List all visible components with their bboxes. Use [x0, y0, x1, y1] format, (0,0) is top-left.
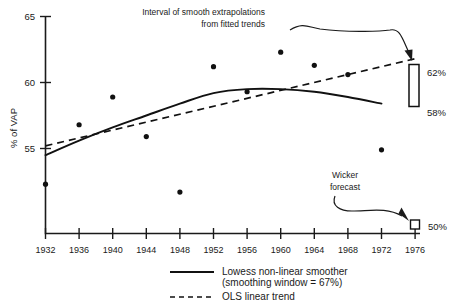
forecast-annotation-line1: Wicker [332, 170, 358, 180]
legend: Lowess non-linear smoother (smoothing wi… [170, 266, 348, 302]
x-tick-label-1932: 1932 [35, 245, 55, 255]
x-tick-label-1968: 1968 [338, 245, 358, 255]
y-tick-label-55: 55 [24, 143, 35, 154]
x-tick-label-1944: 1944 [136, 245, 156, 255]
x-tick-label-1940: 1940 [103, 245, 123, 255]
series-layer [43, 50, 415, 195]
forecast-annotation-arrow [334, 196, 402, 216]
data-point [211, 64, 216, 69]
x-tick-label-1960: 1960 [271, 245, 291, 255]
lowess-smoother-line [46, 89, 382, 155]
x-tick-label-1964: 1964 [304, 245, 324, 255]
legend-label-lowess-line1: Lowess non-linear smoother [222, 266, 348, 277]
wicker-forecast-marker [411, 220, 420, 229]
data-point [177, 189, 182, 194]
interval-annotation-arrow [290, 26, 410, 55]
axes-group: 65 60 55 % of VAP 1932 1936 1940 1944 19… [8, 11, 425, 255]
wicker-forecast-group: 50% [411, 220, 448, 232]
legend-label-ols: OLS linear trend [222, 291, 295, 302]
data-point [77, 122, 82, 127]
forecast-annotation-line2: forecast [330, 182, 361, 192]
forecast-value-label: 50% [428, 221, 448, 232]
extrapolation-interval-group: 62% 58% [409, 65, 447, 119]
data-point [110, 94, 115, 99]
data-point [312, 63, 317, 68]
axis-lines [46, 16, 421, 234]
data-point [278, 50, 283, 55]
x-tick-label-1976: 1976 [405, 245, 425, 255]
x-tick-label-1952: 1952 [203, 245, 223, 255]
y-tick-label-60: 60 [24, 77, 35, 88]
extrapolation-interval-box [409, 65, 419, 107]
x-tick-label-1972: 1972 [371, 245, 391, 255]
x-tick-label-1956: 1956 [237, 245, 257, 255]
interval-upper-label: 62% [427, 67, 447, 78]
forecast-annotation-arrowhead [399, 208, 410, 222]
x-tick-label-1936: 1936 [69, 245, 89, 255]
chart-canvas: 65 60 55 % of VAP 1932 1936 1940 1944 19… [0, 0, 453, 306]
interval-annotation-line1: Interval of smooth extrapolations [142, 7, 265, 17]
interval-annotation-arrowhead [405, 50, 413, 62]
interval-lower-label: 58% [427, 107, 447, 118]
forecast-annotation: Wicker forecast [330, 170, 409, 221]
data-point [379, 147, 384, 152]
interval-annotation: Interval of smooth extrapolations from f… [142, 7, 412, 61]
x-tick-label-1948: 1948 [170, 245, 190, 255]
chart-container: 65 60 55 % of VAP 1932 1936 1940 1944 19… [0, 0, 453, 306]
data-point [245, 89, 250, 94]
y-axis-title: % of VAP [8, 108, 19, 148]
y-tick-label-65: 65 [24, 11, 35, 22]
interval-annotation-line2: from fitted trends [201, 19, 265, 29]
data-point [144, 134, 149, 139]
data-point [43, 182, 48, 187]
data-point [345, 72, 350, 77]
legend-label-lowess-line2: (smoothing window = 67%) [222, 277, 342, 288]
